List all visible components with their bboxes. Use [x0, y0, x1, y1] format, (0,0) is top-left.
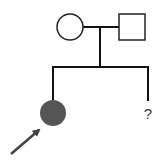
- proband-arrow-icon: [11, 130, 39, 154]
- unknown-child-label: ?: [144, 105, 152, 122]
- father-symbol: [119, 14, 145, 40]
- pedigree-diagram: ?: [0, 0, 160, 163]
- mother-symbol: [57, 14, 83, 40]
- proband-affected-female: [40, 100, 66, 126]
